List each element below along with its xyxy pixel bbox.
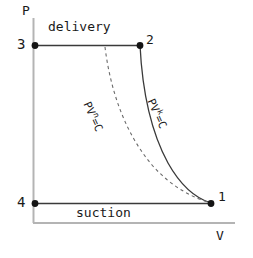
delivery-label: delivery bbox=[48, 20, 111, 33]
state-point-label-1: 1 bbox=[218, 190, 226, 203]
state-point-3 bbox=[32, 42, 39, 49]
y-axis-label: P bbox=[22, 4, 30, 17]
state-point-4 bbox=[32, 200, 39, 207]
y-tick-label-4: 4 bbox=[17, 195, 25, 209]
x-axis-label: V bbox=[216, 229, 224, 242]
state-point-2 bbox=[137, 42, 144, 49]
pv-diagram-figure: P V 3 4 2 1 delivery suction PVn=C PVk=C bbox=[0, 0, 253, 258]
y-tick-label-3: 3 bbox=[17, 37, 25, 51]
suction-label: suction bbox=[76, 206, 131, 219]
state-point-1 bbox=[208, 200, 215, 207]
state-point-label-2: 2 bbox=[146, 33, 154, 46]
isentropic-curve bbox=[140, 45, 211, 203]
